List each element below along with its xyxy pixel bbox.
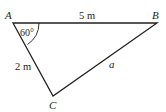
side-label-ac: 2 m	[15, 61, 31, 72]
vertex-label-a: A	[4, 9, 12, 21]
triangle-diagram: A B C 5 m 2 m a 60°	[0, 0, 166, 112]
vertex-label-b: B	[152, 9, 159, 21]
side-label-ab: 5 m	[79, 10, 95, 21]
side-label-bc: a	[109, 58, 115, 70]
angle-label-a: 60°	[20, 27, 34, 38]
vertex-label-c: C	[49, 99, 57, 111]
triangle-abc	[13, 23, 157, 96]
